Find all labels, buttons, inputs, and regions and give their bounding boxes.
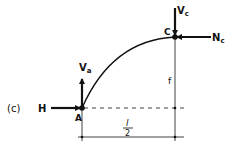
arch-free-body-diagram: (c) H A C Va Vc Nc f l 2 <box>0 0 237 156</box>
half-span-denominator: 2 <box>125 129 130 138</box>
panel-label: (c) <box>7 103 20 114</box>
rise-label: f <box>168 76 172 86</box>
point-a-label: A <box>75 113 82 123</box>
point-c-node <box>172 34 178 40</box>
point-c-label: C <box>164 27 171 37</box>
point-a-node <box>79 105 85 111</box>
vc-label: Vc <box>177 5 189 18</box>
baseline-crown-point <box>174 107 177 110</box>
va-label: Va <box>79 62 92 75</box>
dim-tick-right <box>174 136 177 139</box>
dim-tick-left <box>81 136 84 139</box>
nc-label: Nc <box>212 32 225 45</box>
h-label: H <box>38 103 46 114</box>
arch-curve <box>82 37 175 108</box>
half-span-numerator: l <box>126 118 129 128</box>
